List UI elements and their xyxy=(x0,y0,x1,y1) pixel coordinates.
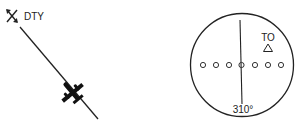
waypoint-label: DTY xyxy=(24,11,44,22)
map-panel: DTY xyxy=(7,10,98,119)
vor-diagram: DTY TO 310° xyxy=(0,0,296,124)
course-line xyxy=(20,27,98,119)
waypoint-x-icon xyxy=(7,10,17,22)
to-from-label: TO xyxy=(261,32,275,43)
course-label: 310° xyxy=(233,104,254,115)
vor-indicator: TO 310° xyxy=(191,14,294,117)
triangle-up-icon xyxy=(264,44,273,52)
airplane-icon xyxy=(54,74,89,108)
deflection-dots xyxy=(200,62,283,67)
